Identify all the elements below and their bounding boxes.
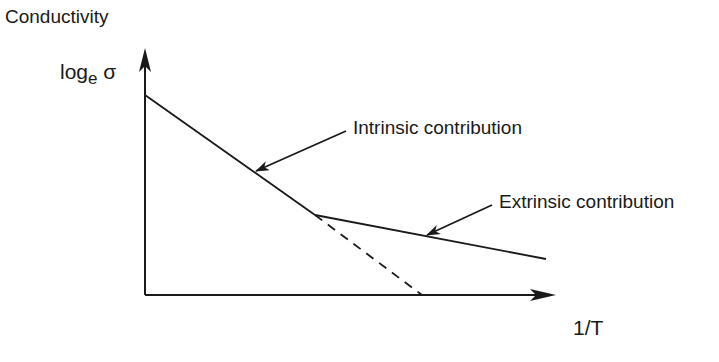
y-axis-label-log: log [60, 60, 88, 83]
intrinsic-extrapolation-dashed [315, 215, 422, 295]
y-axis-label-sigma: σ [103, 60, 116, 83]
extrinsic-pointer-arrow-icon [427, 205, 492, 235]
intrinsic-line [145, 95, 315, 215]
x-axis-label: 1/T [573, 316, 603, 340]
intrinsic-pointer-arrow-icon [256, 131, 346, 171]
y-axis-label-subscript: e [88, 69, 97, 88]
diagram-title: Conductivity [5, 6, 109, 28]
conductivity-diagram [0, 0, 719, 362]
extrinsic-line [315, 215, 546, 259]
y-axis-label: loge σ [60, 60, 116, 89]
extrinsic-annotation: Extrinsic contribution [499, 191, 674, 213]
intrinsic-annotation: Intrinsic contribution [353, 117, 522, 139]
